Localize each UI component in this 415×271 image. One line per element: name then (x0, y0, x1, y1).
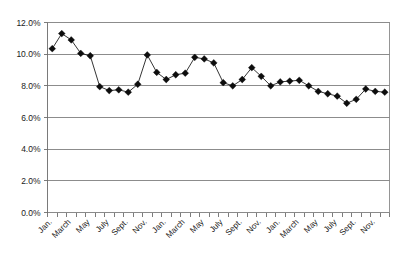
y-tick-label: 0.0% (21, 208, 41, 218)
y-tick-label: 4.0% (21, 144, 41, 154)
y-tick-label: 6.0% (21, 113, 41, 123)
chart-canvas: 0.0%2.0%4.0%6.0%8.0%10.0%12.0% Jan.March… (0, 0, 415, 271)
y-tick-label: 2.0% (21, 176, 41, 186)
y-tick-label: 12.0% (16, 18, 41, 28)
line-chart: 0.0%2.0%4.0%6.0%8.0%10.0%12.0% Jan.March… (0, 0, 415, 271)
y-tick-label: 8.0% (21, 81, 41, 91)
y-tick-label: 10.0% (16, 49, 41, 59)
